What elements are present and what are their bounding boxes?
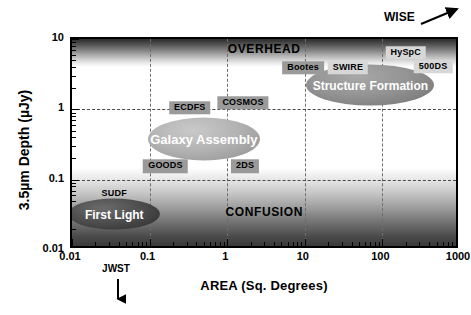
axis-tick bbox=[359, 242, 360, 246]
survey-label-2ds: 2DS bbox=[231, 160, 259, 173]
region-label-confusion: CONFUSION bbox=[226, 205, 303, 219]
x-tick-label: 1 bbox=[222, 250, 228, 262]
axis-tick bbox=[251, 242, 252, 246]
axis-tick bbox=[72, 186, 76, 187]
survey-label-goods: GOODS bbox=[143, 160, 188, 173]
axis-tick bbox=[72, 39, 79, 40]
axis-tick bbox=[142, 242, 143, 246]
axis-tick bbox=[301, 242, 302, 246]
axis-tick bbox=[352, 242, 353, 246]
axis-tick bbox=[138, 242, 139, 246]
axis-tick bbox=[72, 46, 76, 47]
axis-tick bbox=[375, 242, 376, 246]
axis-tick bbox=[72, 42, 76, 43]
axis-tick bbox=[365, 242, 366, 246]
axis-tick bbox=[72, 67, 76, 68]
axis-tick bbox=[220, 242, 221, 246]
wise-annotation-label: WISE bbox=[384, 10, 415, 24]
axis-tick bbox=[297, 242, 298, 246]
survey-label-bootes: Bootes bbox=[282, 61, 324, 74]
axis-tick bbox=[72, 55, 76, 56]
axis-tick bbox=[406, 242, 407, 246]
axis-tick bbox=[429, 242, 430, 246]
axis-tick bbox=[293, 242, 294, 246]
science-ellipse-first-light: First Light bbox=[70, 199, 160, 230]
axis-tick bbox=[288, 242, 289, 246]
x-tick-label: 0.1 bbox=[140, 250, 155, 262]
x-tick-label: 10 bbox=[297, 250, 309, 262]
axis-tick bbox=[342, 242, 343, 246]
axis-tick bbox=[264, 242, 265, 246]
axis-tick bbox=[227, 239, 228, 246]
survey-label-swire: SWIRE bbox=[328, 61, 369, 74]
axis-tick bbox=[72, 201, 76, 202]
axis-tick bbox=[210, 242, 211, 246]
axis-tick bbox=[456, 242, 457, 246]
axis-tick bbox=[72, 109, 79, 110]
axis-tick bbox=[274, 242, 275, 246]
axis-tick bbox=[204, 242, 205, 246]
axis-tick bbox=[72, 76, 76, 77]
y-tick-label-group: 1010.10.01 bbox=[0, 0, 68, 315]
axis-tick bbox=[72, 120, 76, 121]
chart-figure: 3.5µm Depth (µJy) 1010.10.01 OVERHEADCON… bbox=[0, 0, 471, 315]
axis-tick bbox=[72, 125, 76, 126]
axis-tick bbox=[173, 242, 174, 246]
axis-tick bbox=[72, 50, 76, 51]
axis-tick bbox=[443, 242, 444, 246]
jwst-annotation-label: JWST bbox=[88, 263, 144, 274]
axis-tick bbox=[224, 242, 225, 246]
axis-tick bbox=[72, 158, 76, 159]
wise-arrow-icon bbox=[418, 1, 468, 31]
plot-area: OVERHEADCONFUSION First LightGalaxy Asse… bbox=[70, 37, 458, 248]
x-axis-title: AREA (Sq. Degrees) bbox=[70, 278, 458, 293]
axis-tick bbox=[72, 195, 76, 196]
axis-tick bbox=[72, 239, 73, 246]
x-tick-label: 1000 bbox=[446, 250, 470, 262]
axis-tick bbox=[448, 242, 449, 246]
axis-tick bbox=[150, 239, 151, 246]
axis-tick bbox=[328, 242, 329, 246]
y-tick-label: 1 bbox=[58, 101, 64, 113]
axis-tick bbox=[370, 242, 371, 246]
axis-tick bbox=[72, 146, 76, 147]
axis-tick bbox=[109, 242, 110, 246]
axis-tick bbox=[281, 242, 282, 246]
axis-tick bbox=[72, 191, 76, 192]
survey-label-500ds: 500DS bbox=[414, 60, 453, 73]
axis-tick bbox=[196, 242, 197, 246]
axis-tick bbox=[437, 242, 438, 246]
axis-tick bbox=[72, 113, 76, 114]
gridline-horizontal bbox=[72, 180, 456, 181]
jwst-arrow-icon bbox=[110, 278, 126, 308]
axis-tick bbox=[382, 239, 383, 246]
survey-label-ecdfs: ECDFS bbox=[169, 101, 211, 114]
science-ellipse-galaxy-assembly: Galaxy Assembly bbox=[148, 117, 260, 160]
axis-tick bbox=[452, 242, 453, 246]
x-tick-label: 0.01 bbox=[59, 250, 80, 262]
axis-tick bbox=[187, 242, 188, 246]
axis-tick bbox=[379, 242, 380, 246]
y-tick-label: 0.1 bbox=[49, 172, 64, 184]
survey-label-sudf: SUDF bbox=[97, 188, 132, 201]
axis-tick bbox=[72, 137, 76, 138]
axis-tick bbox=[119, 242, 120, 246]
axis-tick bbox=[72, 229, 76, 230]
axis-tick bbox=[215, 242, 216, 246]
gridline-horizontal bbox=[72, 109, 456, 110]
axis-tick bbox=[72, 60, 76, 61]
survey-label-hyspc: HySpC bbox=[385, 46, 426, 59]
axis-tick bbox=[72, 180, 79, 181]
x-tick-label: 100 bbox=[371, 250, 389, 262]
axis-tick bbox=[72, 116, 76, 117]
survey-label-cosmos: COSMOS bbox=[217, 96, 268, 109]
axis-tick bbox=[72, 131, 76, 132]
axis-tick bbox=[146, 242, 147, 246]
axis-tick bbox=[305, 239, 306, 246]
axis-tick bbox=[72, 88, 76, 89]
axis-tick bbox=[132, 242, 133, 246]
axis-tick bbox=[419, 242, 420, 246]
region-label-overhead: OVERHEAD bbox=[228, 42, 301, 56]
axis-tick bbox=[95, 242, 96, 246]
axis-tick bbox=[126, 242, 127, 246]
